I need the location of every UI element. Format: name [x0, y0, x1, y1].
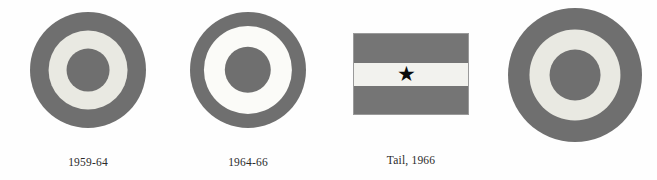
figure-roundel-unlabeled — [508, 8, 642, 142]
roundel-unlabeled — [508, 8, 642, 142]
caption-roundel-1964-66: 1964-66 — [190, 156, 306, 168]
caption-tail-flag-1966: Tail, 1966 — [353, 154, 469, 166]
roundel-unlabeled-center-disc — [550, 50, 601, 101]
insignia-plate: 1959-64 1964-66 ★ Tail, 1966 — [0, 0, 657, 180]
roundel-1959-64 — [30, 12, 146, 128]
figure-tail-flag-1966: ★ — [353, 33, 469, 115]
caption-roundel-1959-64: 1959-64 — [30, 156, 146, 168]
roundel-1959-64-center-disc — [67, 49, 110, 92]
flag-top-band — [354, 34, 468, 63]
star-icon: ★ — [354, 63, 459, 86]
roundel-1964-66 — [190, 12, 306, 128]
figure-roundel-1959-64 — [30, 12, 146, 128]
tail-flag-1966: ★ — [353, 33, 469, 115]
figure-roundel-1964-66 — [190, 12, 306, 128]
flag-bottom-band — [354, 86, 468, 114]
